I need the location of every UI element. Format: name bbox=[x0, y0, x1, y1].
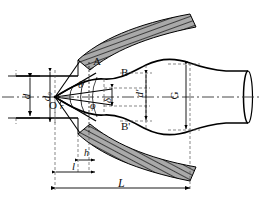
label-d: d bbox=[21, 94, 32, 100]
label-delta: δ bbox=[102, 98, 113, 103]
label-angle-theta: θ bbox=[78, 80, 83, 90]
label-profile-B-prime: B' bbox=[121, 121, 130, 132]
figure-canvas: d d₀ O r θ φ A B B' δ d' G h l L bbox=[0, 0, 263, 201]
label-d-prime: d' bbox=[134, 90, 145, 98]
label-origin-O: O bbox=[49, 100, 57, 111]
lower-die-jaw bbox=[78, 124, 196, 181]
label-L: L bbox=[118, 177, 125, 189]
label-profile-B: B bbox=[121, 67, 128, 78]
label-l: l bbox=[72, 161, 75, 172]
label-region-A: A bbox=[93, 56, 101, 67]
label-angle-phi: φ bbox=[90, 101, 96, 111]
label-radius-r: r bbox=[60, 102, 64, 111]
apex-point-marker bbox=[54, 96, 57, 99]
label-h: h bbox=[84, 148, 89, 158]
label-G: G bbox=[169, 92, 180, 100]
